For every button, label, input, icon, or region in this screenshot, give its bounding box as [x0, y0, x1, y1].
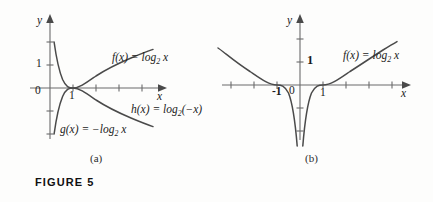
panel-a-origin-label: 0: [35, 84, 41, 96]
panel-b-y-axis-label: y: [287, 14, 292, 26]
panel-b-xtick-1: 1: [320, 86, 326, 98]
panel-b-caption: (b): [305, 152, 318, 164]
panel-a-caption: (a): [90, 152, 102, 164]
panel-a-y-axis-arrow: [46, 14, 54, 23]
panel-b-series-label-h: h(x) = log2(−x): [131, 103, 202, 118]
panel-a-x-axis-label: x: [157, 90, 162, 102]
panel-b-axes: [222, 14, 411, 140]
panel-b-series-label-f: f(x) = log2 x: [343, 49, 399, 64]
panel-a-series-label-f: f(x) = log2 x: [112, 51, 168, 66]
figure-5-graphic: [0, 0, 433, 202]
panel-b-ytick-1: 1: [307, 53, 313, 68]
panel-b-origin-label: 0: [289, 84, 295, 96]
panel-a-axes: [30, 14, 167, 139]
panel-a-series-label-g-text: g(x) = −log2 x: [60, 123, 126, 135]
panel-a-xtick-1: 1: [69, 89, 75, 101]
panel-b-x-axis-label: x: [401, 87, 406, 99]
panel-b-xtick-neg1: -1: [272, 85, 282, 97]
panel-a-y-axis-label: y: [37, 14, 42, 26]
panel-b-series-label-h-text: h(x) = log2(−x): [131, 103, 202, 115]
panel-a-series-label-f-text: f(x) = log2 x: [112, 51, 168, 63]
panel-b-curve-h: [218, 48, 297, 146]
panel-a-ytick-1: 1: [36, 57, 42, 69]
panel-b-series-label-f-text: f(x) = log2 x: [343, 49, 399, 61]
figure-caption: FIGURE 5: [35, 176, 95, 188]
panel-a-series-label-g: g(x) = −log2 x: [60, 123, 126, 138]
panel-b-y-axis-arrow: [296, 14, 304, 23]
